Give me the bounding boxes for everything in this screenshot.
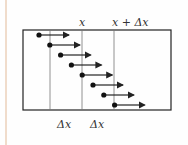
particle-arrow [47, 42, 80, 47]
particle-arrow [69, 62, 102, 67]
particle-arrow [80, 72, 113, 77]
particle-arrow [101, 92, 134, 97]
particle-dot [69, 62, 74, 67]
particle-dot [80, 72, 85, 77]
particle-dot [90, 82, 95, 87]
particle-arrow [90, 82, 123, 87]
label-dx-right: Δx [89, 118, 105, 131]
control-box [23, 30, 171, 110]
particle-arrow [58, 52, 91, 57]
particle-dot [58, 52, 63, 57]
flux-diagram: x x + Δx Δx Δx [0, 0, 188, 145]
particle-arrow [36, 32, 69, 37]
label-x-plus-dx: x + Δx [112, 16, 149, 29]
label-x: x [79, 16, 86, 29]
particle-arrow [112, 102, 145, 107]
particle-dot [36, 32, 41, 37]
particle-dot [101, 92, 106, 97]
particle-dot [112, 102, 117, 107]
particle-dot [47, 42, 52, 47]
particle-arrows [36, 32, 144, 107]
label-dx-left: Δx [56, 118, 72, 131]
